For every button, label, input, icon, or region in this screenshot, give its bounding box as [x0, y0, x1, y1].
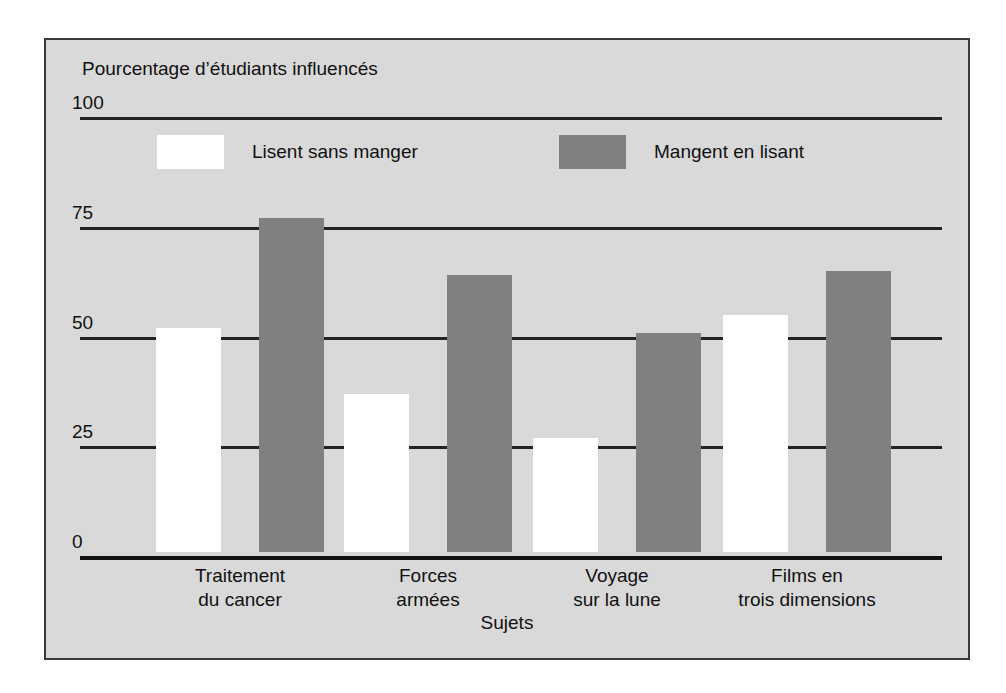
category-label-0: Traitementdu cancer	[135, 564, 345, 612]
bar-series-0-category-2	[533, 438, 598, 552]
category-label-3: Films entrois dimensions	[702, 564, 912, 612]
category-label-2: Voyagesur la lune	[512, 564, 722, 612]
bar-series-1-category-1	[447, 275, 512, 552]
category-label-1: Forcesarmées	[323, 564, 533, 612]
bar-series-0-category-1	[344, 394, 409, 552]
bar-series-1-category-2	[636, 333, 701, 553]
bar-series-0-category-0	[156, 328, 221, 552]
chart-figure-frame: Pourcentage d’étudiants influencés 02550…	[44, 38, 970, 660]
bar-series-1-category-3	[826, 271, 891, 552]
bar-series-0-category-3	[723, 315, 788, 552]
x-axis-title: Sujets	[46, 612, 968, 634]
plot-area: Pourcentage d’étudiants influencés 02550…	[46, 40, 968, 658]
bar-series-1-category-0	[259, 218, 324, 552]
